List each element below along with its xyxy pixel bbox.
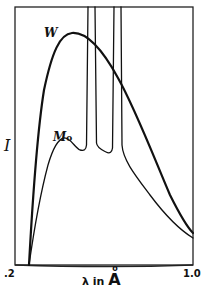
series-label-mo-sub: o xyxy=(66,133,72,143)
x-axis-label-prefix: λ in xyxy=(82,275,108,288)
x-tick-max: 1.0 xyxy=(183,268,201,279)
spectrum-chart xyxy=(0,0,208,293)
y-axis-label: I xyxy=(4,136,10,155)
series-label-w: W xyxy=(44,26,57,40)
x-axis-label-unit: Ao xyxy=(108,270,120,289)
angstrom-ring: o xyxy=(112,264,118,273)
x-tick-min: .2 xyxy=(4,268,15,279)
series-label-mo: Mo xyxy=(53,130,72,144)
x-axis-label: λ in Ao xyxy=(82,270,121,289)
series-label-mo-main: M xyxy=(53,130,66,144)
plot-frame xyxy=(15,7,193,265)
